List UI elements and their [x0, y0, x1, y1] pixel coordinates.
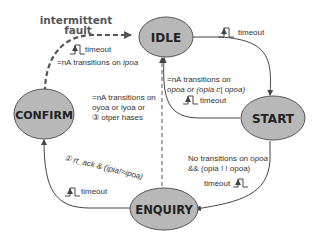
start-enquiry-condition-line2: && (opia ! ! opoa) [188, 164, 251, 173]
state-confirm-label: CONFIRM [15, 109, 73, 122]
state-start[interactable]: START [241, 96, 305, 140]
timeout-pulse-icon [233, 179, 248, 187]
timeout-pulse-icon [65, 188, 80, 196]
state-confirm[interactable]: CONFIRM [14, 89, 74, 139]
state-enquiry-label: ENQUIRY [135, 203, 193, 217]
enquiry-idle-condition-line1: =nA transitions on [92, 93, 156, 102]
start-idle-condition-line2: opoa or (opia c| opoa) [167, 85, 245, 94]
state-idle[interactable]: IDLE [139, 17, 193, 57]
state-enquiry[interactable]: ENQUIRY [130, 188, 198, 230]
state-start-label: START [252, 112, 295, 126]
start-idle-timeout-label: timeout [200, 96, 227, 105]
start-idle-condition-line1: =nA transitions on [167, 75, 231, 84]
fault-label-line2: fault [64, 24, 92, 36]
timeout-pulse-icon [183, 96, 198, 104]
enquiry-idle-condition-line2: oyoa or iyoa or [92, 103, 145, 112]
timeout-pulse-icon [218, 28, 234, 37]
start-enquiry-timeout-label: timeout [204, 179, 231, 188]
confirm-idle-condition: =nA transitions on ipoa [57, 58, 139, 67]
idle-start-timeout-label: timeout [238, 28, 265, 37]
enquiry-idle-condition-line3: ③ otper hases [92, 113, 143, 122]
confirm-idle-timeout-label: timeout [85, 45, 112, 54]
start-enquiry-condition-line1: No transitions on opoa [188, 154, 269, 163]
timeout-pulse-icon [70, 45, 85, 54]
enquiry-confirm-timeout-label: timeout [81, 187, 108, 196]
state-diagram: IDLE START ENQUIRY CONFIRM intermittent … [0, 0, 313, 244]
enquiry-confirm-condition: ① rt_ack & (ipia!=ipoa) [64, 153, 145, 181]
edge-start-enquiry [196, 141, 270, 209]
state-idle-label: IDLE [151, 31, 181, 45]
